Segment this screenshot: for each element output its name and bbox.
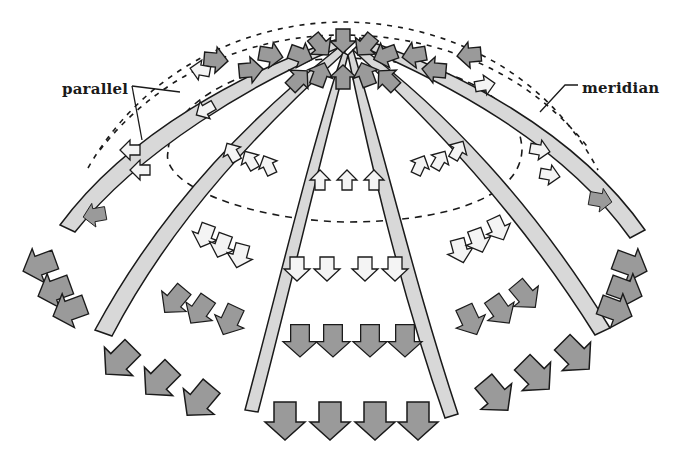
meridian-label: meridian (582, 79, 659, 97)
lower-tension-arrows (188, 213, 515, 281)
dome-diagram (0, 0, 687, 473)
meridian-bands (60, 38, 645, 418)
parallel-label: parallel (62, 80, 128, 98)
